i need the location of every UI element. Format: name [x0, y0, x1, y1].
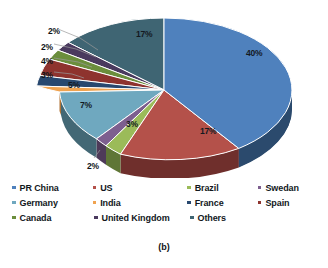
legend-label: Swedan [265, 183, 298, 193]
legend-label: US [100, 183, 112, 193]
legend-item-swedan[interactable]: Swedan [258, 180, 317, 195]
figure-container: 40%17%3%7%5%17% 2%2%4%3%2% PR ChinaUSBra… [0, 0, 328, 268]
legend-label: France [195, 198, 224, 208]
pct-france: 3% [41, 70, 53, 80]
pct-us: 17% [200, 126, 216, 136]
pct-others: 17% [136, 29, 152, 39]
legend-row: CanadaUnited KingdomOthers [12, 210, 317, 225]
legend-swatch-icon [258, 186, 262, 190]
legend-item-others[interactable]: Others [190, 210, 262, 225]
legend-row: GermanyIndiaFranceSpain [12, 195, 317, 210]
legend-swatch-icon [12, 201, 16, 205]
legend-item-germany[interactable]: Germany [12, 195, 93, 210]
pct-united-kingdom: 2% [48, 26, 60, 36]
legend-item-spain[interactable]: Spain [258, 195, 317, 210]
legend-swatch-icon [187, 186, 191, 190]
legend-item-us[interactable]: US [93, 180, 187, 195]
legend-label: PR China [20, 183, 59, 193]
legend-label: Others [198, 213, 226, 223]
legend-item-canada[interactable]: Canada [12, 210, 94, 225]
legend-item-united-kingdom[interactable]: United Kingdom [94, 210, 190, 225]
chart-legend: PR ChinaUSBrazilSwedanGermanyIndiaFrance… [12, 180, 317, 228]
legend-label: Brazil [195, 183, 219, 193]
legend-label: Germany [20, 198, 58, 208]
legend-row: PR ChinaUSBrazilSwedan [12, 180, 317, 195]
pct-pr-china: 40% [246, 48, 262, 58]
legend-swatch-icon [94, 216, 98, 220]
legend-swatch-icon [258, 201, 262, 205]
legend-swatch-icon [187, 201, 191, 205]
figure-caption: (b) [0, 242, 328, 252]
legend-label: India [100, 198, 121, 208]
legend-label: United Kingdom [102, 213, 170, 223]
pct-brazil: 3% [126, 119, 138, 129]
legend-label: Spain [265, 198, 289, 208]
legend-label: Canada [20, 213, 52, 223]
pct-spain: 4% [41, 56, 53, 66]
legend-item-france[interactable]: France [187, 195, 258, 210]
legend-swatch-icon [12, 216, 16, 220]
pie-chart: 40%17%3%7%5%17% 2%2%4%3%2% [0, 2, 328, 178]
pct-india: 5% [68, 80, 80, 90]
pct-germany: 7% [80, 100, 92, 110]
pct-canada: 2% [41, 42, 53, 52]
legend-item-brazil[interactable]: Brazil [187, 180, 258, 195]
legend-item-pr-china[interactable]: PR China [12, 180, 93, 195]
pct-swedan: 2% [87, 161, 99, 171]
legend-swatch-icon [12, 186, 16, 190]
legend-item-india[interactable]: India [93, 195, 187, 210]
legend-swatch-icon [190, 216, 194, 220]
legend-swatch-icon [93, 201, 97, 205]
legend-swatch-icon [93, 186, 97, 190]
